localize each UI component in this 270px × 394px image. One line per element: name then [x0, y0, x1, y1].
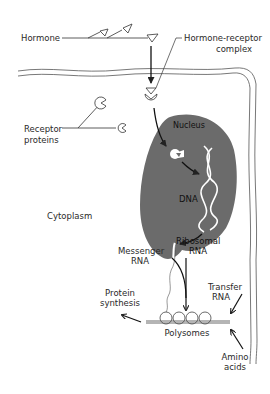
label-amino-acids-2: acids — [216, 362, 254, 372]
arrow-to-protein-synthesis — [122, 315, 141, 322]
label-protein-synthesis-2: synthesis — [100, 298, 140, 308]
receptor-shape-2 — [118, 124, 126, 133]
hormone-group — [62, 24, 158, 42]
label-polysomes: Polysomes — [162, 328, 212, 338]
diagram-canvas — [0, 0, 270, 394]
label-transfer-rna-1: Transfer — [206, 282, 244, 292]
label-cytoplasm: Cytoplasm — [47, 211, 92, 221]
label-messenger-rna-1: Messenger — [118, 246, 162, 256]
polysomes — [146, 312, 230, 324]
label-ribosomal-rna-1: Ribosomal — [176, 236, 220, 246]
label-dna: DNA — [179, 194, 198, 204]
arrow-amino-acids — [231, 330, 243, 349]
label-ribosomal-rna-2: RNA — [176, 246, 220, 256]
label-amino-acids-1: Amino — [216, 352, 254, 362]
label-transfer-rna-2: RNA — [206, 292, 236, 302]
hormone-molecule-3 — [147, 34, 158, 42]
label-receptor-proteins-1: Receptor — [24, 124, 62, 134]
label-hormone-receptor-complex-2: complex — [216, 44, 252, 54]
hormone-molecule-1 — [100, 29, 108, 36]
label-receptor-proteins-2: proteins — [24, 135, 59, 145]
receptor-shape-1 — [95, 97, 106, 109]
complex-pointer — [156, 38, 182, 88]
hormone-molecule-2 — [123, 24, 132, 33]
label-hormone-receptor-complex-1: Hormone-receptor — [184, 33, 262, 43]
hormone-receptor-complex — [145, 88, 157, 100]
label-messenger-rna-2: RNA — [118, 256, 162, 266]
arrow-mrna-to-polysomes — [172, 258, 186, 298]
receptor-proteins — [62, 97, 126, 132]
label-protein-synthesis-1: Protein — [100, 288, 140, 298]
label-nucleus: Nucleus — [173, 121, 205, 131]
label-hormone: Hormone — [21, 33, 60, 43]
